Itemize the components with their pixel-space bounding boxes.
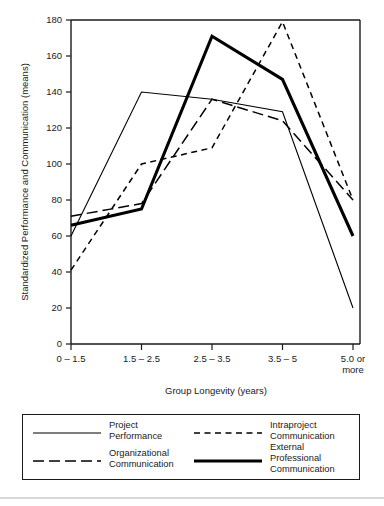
y-tick-label: 100 — [46, 158, 62, 169]
y-tick-label: 60 — [51, 230, 62, 241]
legend-item: Project Performance — [31, 420, 192, 442]
legend-label: Organizational Communication — [109, 448, 174, 470]
x-tick-label: 5.0 or — [341, 353, 365, 364]
y-tick-marks — [66, 20, 71, 344]
legend-swatch-thick-solid — [192, 453, 264, 465]
legend-item: Organizational Communication — [31, 448, 192, 470]
series-layer — [71, 22, 353, 308]
y-tick-label: 0 — [57, 338, 62, 349]
x-tick-label: 0 – 1.5 — [56, 353, 85, 364]
legend-swatch-long-dash — [31, 453, 103, 465]
legend-item: External Professional Communication — [192, 442, 353, 475]
x-tick-label: 3.5 – 5 — [268, 353, 297, 364]
footer-divider — [0, 497, 384, 499]
y-tick-label: 140 — [46, 86, 62, 97]
figure: 020406080100120140160180 Standardized Pe… — [0, 0, 384, 506]
plot-frame — [71, 20, 360, 344]
x-tick-marks — [71, 344, 353, 350]
x-tick-label: 2.5 – 3.5 — [194, 353, 231, 364]
legend-item: Intraproject Communication — [192, 420, 353, 442]
y-axis-group: 020406080100120140160180 Standardized Pe… — [19, 14, 71, 349]
y-tick-label: 80 — [51, 194, 62, 205]
legend-swatch-thin-solid — [31, 425, 103, 437]
x-axis-group: 0 – 1.51.5 – 2.52.5 – 3.53.5 – 55.0 ormo… — [56, 344, 365, 396]
chart-legend: Project PerformanceIntraproject Communic… — [22, 414, 360, 480]
legend-swatch-short-dash — [192, 425, 264, 437]
y-tick-label: 180 — [46, 14, 62, 25]
legend-label: Intraproject Communication — [270, 420, 335, 442]
y-axis-title: Standardized Performance and Communicati… — [19, 63, 30, 301]
x-tick-label: 1.5 – 2.5 — [123, 353, 160, 364]
series-line-long-dash — [71, 99, 353, 216]
series-line-short-dash — [71, 22, 353, 270]
y-tick-labels: 020406080100120140160180 — [46, 14, 62, 349]
y-tick-label: 120 — [46, 122, 62, 133]
legend-label: Project Performance — [109, 420, 162, 442]
line-chart: 020406080100120140160180 Standardized Pe… — [0, 0, 384, 400]
x-axis-title: Group Longevity (years) — [165, 385, 267, 396]
x-tick-label-continued: more — [342, 364, 364, 375]
legend-label: External Professional Communication — [270, 442, 353, 475]
y-tick-label: 160 — [46, 50, 62, 61]
chart-canvas: 020406080100120140160180 Standardized Pe… — [0, 0, 384, 400]
y-tick-label: 40 — [51, 266, 62, 277]
y-tick-label: 20 — [51, 302, 62, 313]
legend-grid: Project PerformanceIntraproject Communic… — [23, 415, 359, 479]
x-tick-labels: 0 – 1.51.5 – 2.52.5 – 3.53.5 – 55.0 ormo… — [56, 353, 365, 375]
series-line-thin-solid — [71, 92, 353, 308]
